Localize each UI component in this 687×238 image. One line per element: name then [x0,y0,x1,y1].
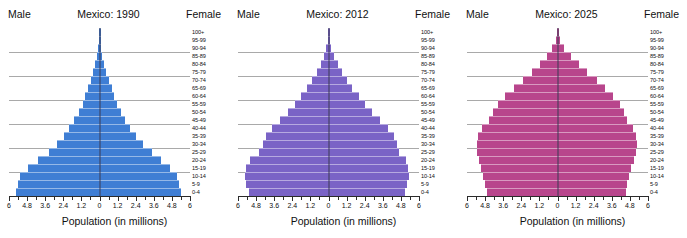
bar-female [558,188,626,196]
age-group-label: 0-4 [421,188,458,196]
age-group-label: 45-49 [192,116,229,124]
age-group-label: 30-34 [650,140,687,148]
x-tick-label: 6 [7,202,11,209]
x-tick-minor [265,196,266,200]
age-group-label: 40-44 [650,124,687,132]
x-tick-minor [410,196,411,200]
x-tick-label: 1.2 [535,202,545,209]
x-tick-major [419,196,420,201]
bar-male [483,172,557,180]
age-group-label: 50-54 [421,108,458,116]
x-tick-label: 3.6 [149,202,159,209]
age-group-label: 45-49 [421,116,458,124]
x-tick-minor [585,196,586,200]
bar-male [307,84,328,92]
age-group-axis: 0-45-910-1415-1920-2425-2930-3435-3940-4… [192,28,229,196]
x-tick-major [612,196,613,201]
x-tick-minor [301,196,302,200]
x-tick-minor [621,196,622,200]
bar-female [558,148,636,156]
bar-female [558,116,628,124]
x-tick-label: 1.2 [342,202,352,209]
x-tick-label: 3.6 [607,202,617,209]
x-tick-labels: 64.83.62.41.201.22.43.64.86 [229,202,458,213]
x-tick-label: 2.4 [287,202,297,209]
female-side-label: Female [415,8,450,20]
bar-female [100,92,115,100]
bar-female [100,100,118,108]
age-group-label: 95-99 [650,36,687,44]
bar-female [329,180,408,188]
x-axis-title: Population (in millions) [458,215,687,227]
bar-female [100,76,109,84]
bar-female [100,132,137,140]
x-tick-minor [567,196,568,200]
age-group-label: 85-89 [192,52,229,60]
bar-female [329,84,353,92]
x-tick-label: 1.2 [77,202,87,209]
x-tick-minor [603,196,604,200]
panel-header: MaleMexico: 2025Female [458,6,687,22]
bars-plot [238,28,419,196]
female-side-label: Female [644,8,679,20]
age-group-label: 30-34 [421,140,458,148]
age-group-label: 5-9 [192,180,229,188]
age-group-label: 35-39 [421,132,458,140]
bar-female [100,108,122,116]
x-tick-major [27,196,28,201]
bar-female [100,116,126,124]
x-tick-major [190,196,191,201]
x-tick-major [365,196,366,201]
x-tick-minor [283,196,284,200]
x-tick-label: 1.2 [571,202,581,209]
bar-male [479,156,558,164]
bar-female [558,60,579,68]
x-tick-minor [338,196,339,200]
x-tick-label: 4.8 [480,202,490,209]
x-tick-major [63,196,64,201]
x-tick-minor [127,196,128,200]
center-axis-line [557,28,558,196]
bar-male [485,180,557,188]
x-tick-major [558,196,559,201]
bar-male [249,188,329,196]
bar-female [100,188,181,196]
bar-female [100,164,170,172]
panel-header: MaleMexico: 2012Female [229,6,458,22]
x-tick-labels: 64.83.62.41.201.22.43.64.86 [0,202,229,213]
x-tick-label: 2.4 [516,202,526,209]
x-tick-minor [392,196,393,200]
bar-male [79,108,100,116]
bar-female [329,92,359,100]
bar-female [558,100,621,108]
bar-male [312,76,328,84]
bar-male [514,84,558,92]
x-tick-major [503,196,504,201]
bar-male [523,76,558,84]
x-tick-labels: 64.83.62.41.201.22.43.64.86 [458,202,687,213]
age-group-label: 75-79 [192,68,229,76]
x-tick-label: 4.8 [625,202,635,209]
age-group-label: 75-79 [421,68,458,76]
age-group-label: 15-19 [421,164,458,172]
bar-male [478,132,557,140]
bar-female [558,140,638,148]
x-tick-minor [109,196,110,200]
bar-male [498,100,558,108]
bar-female [558,92,614,100]
x-tick-minor [36,196,37,200]
age-group-label: 5-9 [650,180,687,188]
x-tick-label: 4.8 [167,202,177,209]
bar-male [547,52,558,60]
bar-male [493,108,557,116]
panel-title: Mexico: 1990 [77,8,139,20]
age-group-label: 35-39 [650,132,687,140]
x-tick-major [539,196,540,201]
age-group-label: 65-69 [421,84,458,92]
bar-male [245,172,328,180]
bar-female [100,60,105,68]
bar-male [317,68,329,76]
age-group-label: 55-59 [192,100,229,108]
age-group-label: 90-94 [421,44,458,52]
age-group-label: 85-89 [650,52,687,60]
